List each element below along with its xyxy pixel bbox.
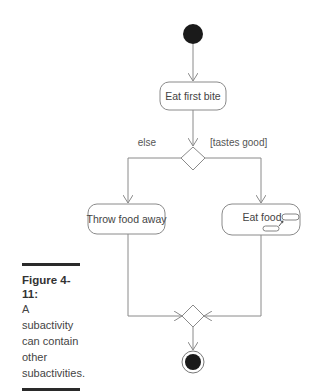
decision-node xyxy=(181,147,205,170)
action-label: Eat food xyxy=(242,211,281,223)
final-node xyxy=(182,351,204,373)
caption-top-rule xyxy=(22,263,80,266)
caption-line: subactivity xyxy=(22,317,82,333)
initial-node xyxy=(183,24,203,44)
edge-eat-food-to-merge xyxy=(204,235,261,316)
subactivity-eat-food: Eat food xyxy=(222,204,300,235)
action-label: Throw food away xyxy=(87,213,168,225)
caption-line: other xyxy=(22,349,82,365)
caption-line: subactivities. xyxy=(22,365,82,381)
edge-throw-to-merge xyxy=(128,234,182,316)
caption-title: Figure 4-11: xyxy=(22,273,82,301)
action-eat-first-bite: Eat first bite xyxy=(160,82,226,110)
caption-line: can contain xyxy=(22,333,82,349)
edge-else-branch xyxy=(128,158,181,203)
figure-caption: Figure 4-11: A subactivity can contain o… xyxy=(22,263,82,391)
action-throw-food-away: Throw food away xyxy=(87,204,168,234)
guard-tastes-good: [tastes good] xyxy=(210,137,267,148)
caption-bottom-rule xyxy=(22,388,80,391)
caption-body: A subactivity can contain other subactiv… xyxy=(22,301,82,381)
action-label: Eat first bite xyxy=(165,90,221,102)
caption-line: A xyxy=(22,301,82,317)
merge-node xyxy=(182,305,204,327)
guard-else: else xyxy=(138,137,157,148)
edge-tastes-good-branch xyxy=(205,158,261,203)
